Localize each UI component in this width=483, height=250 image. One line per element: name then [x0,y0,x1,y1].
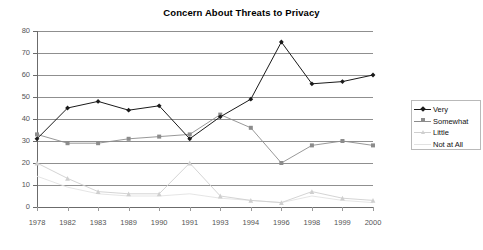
data-point [157,135,161,139]
legend-item-very[interactable]: Very [412,104,480,116]
data-point [66,141,70,145]
data-point [188,132,192,136]
legend-label: Not at All [431,141,463,149]
legend-swatch-icon [414,117,431,126]
data-point [310,143,314,147]
legend-item-somewhat[interactable]: Somewhat [412,116,480,128]
privacy-concern-line-chart: Concern About Threats to Privacy 0102030… [0,0,483,250]
data-point [35,161,40,166]
data-point [279,161,283,165]
series-little [35,161,376,205]
series-somewhat [35,113,375,165]
data-point [127,137,131,141]
legend-swatch-icon [414,128,431,137]
legend-swatch-icon [414,105,431,114]
series-line [37,115,373,163]
data-point [371,73,376,78]
data-point [96,99,101,104]
legend-swatch-icon [414,140,431,149]
data-point [340,79,345,84]
data-point [340,139,344,143]
legend-label: Little [431,129,449,137]
data-point [35,132,39,136]
data-point [371,143,375,147]
series-very [35,40,376,142]
legend-label: Very [431,106,448,114]
data-point [249,126,253,130]
data-point [65,176,70,181]
legend-label: Somewhat [431,118,468,126]
legend-item-not-at-all[interactable]: Not at All [412,139,480,151]
data-point [248,97,253,102]
data-point [126,108,131,113]
data-point [187,161,192,166]
series-line [37,163,373,203]
legend-item-little[interactable]: Little [412,127,480,139]
chart-legend: VerySomewhatLittleNot at All [411,100,481,150]
data-point [96,141,100,145]
